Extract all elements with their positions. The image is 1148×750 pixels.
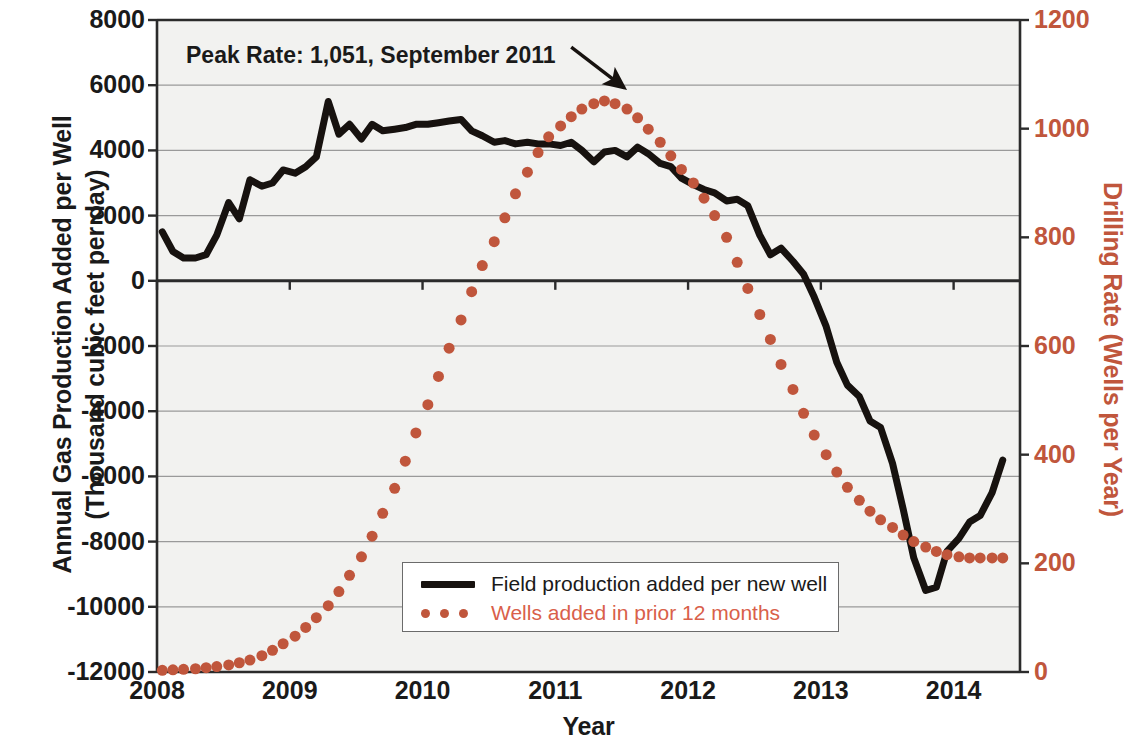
data-point-marker [632,112,643,123]
data-point-marker [344,570,355,581]
data-point-marker [688,178,699,189]
y-axis-left-tick-label: -2000 [5,333,145,358]
data-point-marker [400,456,411,467]
x-axis-tick-label: 2012 [618,678,758,703]
data-point-marker [699,193,710,204]
data-point-marker [533,147,544,158]
y-axis-right-tick-label: 1000 [1034,116,1148,141]
x-axis-tick-label: 2009 [220,678,360,703]
legend-label-wells-added: Wells added in prior 12 months [491,601,780,625]
data-point-marker [842,482,853,493]
data-point-marker [964,552,975,563]
data-point-marker [178,664,189,675]
data-point-marker [466,286,477,297]
data-point-marker [333,586,344,597]
plot-canvas [0,0,1148,750]
y-axis-right-tick-label: 800 [1034,224,1148,249]
data-point-marker [898,530,909,541]
data-point-marker [732,257,743,268]
data-point-marker [754,309,765,320]
y-axis-left-tick-label: 2000 [5,203,145,228]
x-axis-tick-label: 2008 [87,678,227,703]
data-point-marker [709,210,720,221]
y-axis-left-tick-label: 8000 [5,7,145,32]
data-point-marker [278,638,289,649]
data-point-marker [510,188,521,199]
y-axis-left-tick-label: -8000 [5,529,145,554]
data-point-marker [499,212,510,223]
y-axis-left-tick-label: -4000 [5,398,145,423]
data-point-marker [622,104,633,115]
legend-label-field-production: Field production added per new well [491,572,827,596]
data-point-marker [190,663,201,674]
peak-rate-annotation: Peak Rate: 1,051, September 2011 [186,42,556,69]
legend-item-field-production: Field production added per new well [417,569,838,598]
y-axis-left-tick-label: -6000 [5,463,145,488]
data-point-marker [821,449,832,460]
data-point-marker [456,314,467,325]
data-point-marker [167,664,178,675]
data-point-marker [887,522,898,533]
data-point-marker [908,536,919,547]
y-axis-right-tick-label: 400 [1034,442,1148,467]
data-point-marker [665,150,676,161]
y-axis-right-tick-label: 600 [1034,333,1148,358]
data-point-marker [576,104,587,115]
y-axis-left-tick-label: 0 [5,268,145,293]
data-point-marker [610,98,621,109]
x-axis-title: Year [157,712,1020,741]
data-point-marker [676,164,687,175]
data-point-marker [987,552,998,563]
data-point-marker [356,551,367,562]
data-point-marker [599,95,610,106]
data-point-marker [410,427,421,438]
data-point-marker [831,467,842,478]
data-point-marker [875,514,886,525]
data-point-marker [489,236,500,247]
data-point-marker [997,552,1008,563]
data-point-marker [953,551,964,562]
x-axis-tick-label: 2013 [751,678,891,703]
data-point-marker [566,111,577,122]
x-axis-tick-label: 2014 [884,678,1024,703]
data-point-marker [721,232,732,243]
legend-item-wells-added: Wells added in prior 12 months [417,598,838,627]
data-point-marker [290,631,301,642]
data-point-marker [655,137,666,148]
y-axis-right-tick-label: 1200 [1034,7,1148,32]
data-point-marker [300,622,311,633]
data-point-marker [920,542,931,553]
data-point-marker [211,661,222,672]
chart-legend: Field production added per new well Well… [402,562,839,632]
data-point-marker [809,430,820,441]
chart-figure: Annual Gas Production Added per Well (Th… [0,0,1148,750]
data-point-marker [854,495,865,506]
legend-solid-line-icon [417,576,479,592]
data-point-marker [555,120,566,131]
data-point-marker [776,359,787,370]
data-point-marker [201,662,212,673]
data-point-marker [267,645,278,656]
y-axis-right-tick-label: 0 [1034,659,1148,684]
y-axis-left-tick-label: 6000 [5,72,145,97]
x-axis-tick-label: 2010 [353,678,493,703]
data-point-marker [742,283,753,294]
data-point-marker [798,408,809,419]
data-point-marker [975,552,986,563]
data-point-marker [643,124,654,135]
legend-dotted-line-icon [417,605,479,621]
data-point-marker [433,371,444,382]
data-point-marker [941,549,952,560]
y-axis-right-tick-label: 200 [1034,550,1148,575]
data-point-marker [377,508,388,519]
data-point-marker [234,657,245,668]
data-point-marker [323,600,334,611]
y-axis-left-tick-label: 4000 [5,137,145,162]
data-point-marker [389,483,400,494]
data-point-marker [223,659,234,670]
data-point-marker [367,531,378,542]
data-point-marker [787,384,798,395]
data-point-marker [444,343,455,354]
data-point-marker [588,98,599,109]
data-point-marker [157,665,168,676]
